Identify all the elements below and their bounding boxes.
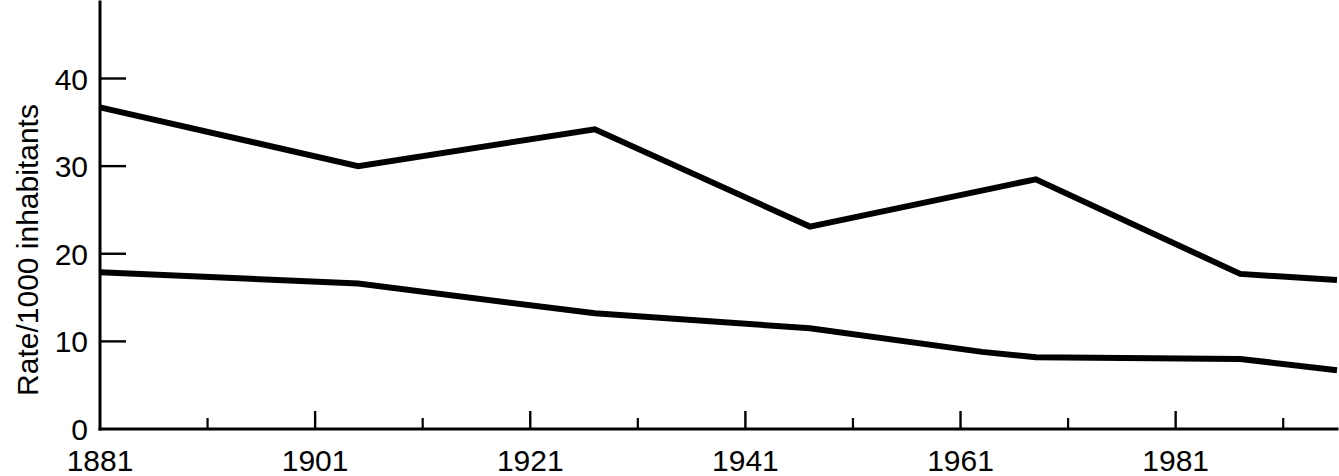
x-tick-label-1921: 1921 [497,444,564,476]
chart-container: Rate/1000 inhabitants 010203040 18811901… [0,0,1339,476]
y-tick-label-group: 010203040 [55,63,88,447]
x-tick-label-group: 188119011921194119611981 [67,444,1209,476]
x-tick-label-1981: 1981 [1142,444,1209,476]
x-tick-group [208,411,1284,429]
x-tick-label-1961: 1961 [927,444,994,476]
y-tick-label-10: 10 [55,325,88,358]
line-chart: Rate/1000 inhabitants 010203040 18811901… [0,0,1339,476]
axes-group [100,2,1337,429]
y-tick-group [100,79,126,342]
series-line-death-rate [100,272,1337,370]
series-group [100,107,1337,370]
x-tick-label-1941: 1941 [712,444,779,476]
series-line-birth-rate [100,107,1337,280]
y-tick-label-40: 40 [55,63,88,96]
y-tick-label-30: 30 [55,150,88,183]
y-tick-label-20: 20 [55,238,88,271]
y-axis-label: Rate/1000 inhabitants [11,104,44,396]
x-tick-label-1881: 1881 [67,444,134,476]
y-tick-label-0: 0 [71,413,88,446]
x-tick-label-1901: 1901 [282,444,349,476]
